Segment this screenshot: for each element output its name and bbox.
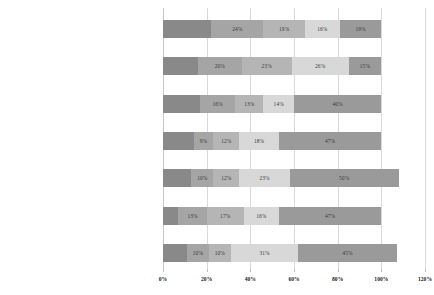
bar-segment: 47%: [279, 132, 382, 150]
bar-segment: 47%: [279, 207, 382, 225]
bar-segment: 20%: [198, 57, 242, 75]
bar-row: 10%10%31%45%: [163, 244, 397, 262]
x-axis-tick-mark: [425, 269, 426, 272]
bar-segment: 45%: [298, 244, 396, 262]
x-axis-tick-mark: [250, 269, 251, 272]
bar-segment: 14%: [263, 95, 294, 113]
bar-segment: 23%: [239, 169, 289, 187]
bar-row: 16%13%14%40%: [163, 95, 381, 113]
stacked-bar-chart: 24%19%16%19%20%23%26%15%16%13%14%40%9%12…: [0, 0, 434, 295]
bar-segment: 26%: [292, 57, 349, 75]
x-axis-tick-label: 0%: [159, 276, 167, 282]
x-axis: 0%20%40%60%80%100%120%: [163, 272, 425, 292]
x-axis-tick-mark: [163, 269, 164, 272]
bar-segment: [163, 20, 211, 38]
bar-segment: 40%: [294, 95, 381, 113]
x-axis-tick-label: 40%: [245, 276, 256, 282]
bar-segment: 16%: [305, 20, 340, 38]
bar-segment: 15%: [349, 57, 382, 75]
bar-segment: 13%: [178, 207, 206, 225]
plot-area: 24%19%16%19%20%23%26%15%16%13%14%40%9%12…: [163, 8, 425, 270]
bar-row: 10%12%23%50%: [163, 169, 399, 187]
x-axis-tick-mark: [381, 269, 382, 272]
bar-segment: 10%: [187, 244, 209, 262]
bar-segment: 10%: [209, 244, 231, 262]
bar-segment: 19%: [263, 20, 304, 38]
bar-row: 13%17%16%47%: [163, 207, 381, 225]
bar-segment: [163, 207, 178, 225]
x-axis-tick-label: 100%: [374, 276, 388, 282]
bar-segment: 19%: [340, 20, 381, 38]
bar-segment: 18%: [239, 132, 278, 150]
bar-rows: 24%19%16%19%20%23%26%15%16%13%14%40%9%12…: [163, 8, 425, 270]
bar-segment: 12%: [213, 169, 239, 187]
bar-segment: 12%: [213, 132, 239, 150]
x-axis-tick-label: 20%: [201, 276, 212, 282]
bar-segment: 16%: [244, 207, 279, 225]
bar-segment: 24%: [211, 20, 263, 38]
gridline-120: [425, 8, 426, 270]
bar-row: 9%12%18%47%: [163, 132, 381, 150]
bar-row: 20%23%26%15%: [163, 57, 381, 75]
bar-segment: 17%: [207, 207, 244, 225]
bar-segment: 10%: [191, 169, 213, 187]
bar-segment: [163, 57, 198, 75]
x-axis-tick-mark: [338, 269, 339, 272]
bar-segment: 13%: [235, 95, 263, 113]
bar-segment: [163, 244, 187, 262]
bar-segment: 16%: [200, 95, 235, 113]
x-axis-tick-label: 60%: [288, 276, 299, 282]
bar-row: 24%19%16%19%: [163, 20, 381, 38]
bar-segment: 23%: [242, 57, 292, 75]
bar-segment: 9%: [194, 132, 214, 150]
bar-segment: [163, 132, 194, 150]
bar-segment: [163, 95, 200, 113]
x-axis-tick-label: 120%: [418, 276, 432, 282]
bar-segment: 31%: [231, 244, 299, 262]
bar-segment: [163, 169, 191, 187]
bar-segment: 50%: [290, 169, 399, 187]
x-axis-tick-label: 80%: [332, 276, 343, 282]
x-axis-tick-mark: [294, 269, 295, 272]
x-axis-tick-mark: [207, 269, 208, 272]
